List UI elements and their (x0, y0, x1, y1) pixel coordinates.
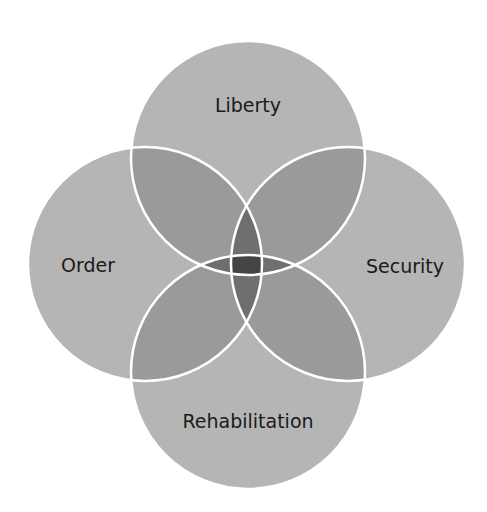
label-order: Order (61, 254, 115, 276)
label-rehabilitation: Rehabilitation (182, 410, 313, 432)
label-liberty: Liberty (215, 94, 281, 116)
label-security: Security (366, 255, 444, 277)
venn-diagram: Liberty Order Security Rehabilitation (0, 0, 487, 512)
